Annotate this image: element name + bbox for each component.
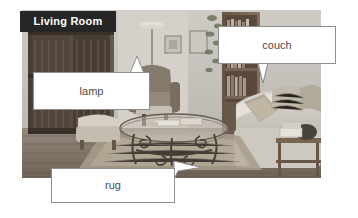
callout-couch-label: couch <box>262 40 291 51</box>
callout-couch[interactable]: couch <box>218 26 336 64</box>
callout-rug[interactable]: rug <box>51 168 175 203</box>
callout-rug-label: rug <box>105 180 121 191</box>
room-title-label: Living Room <box>34 16 103 27</box>
room-title-banner: Living Room <box>20 11 116 32</box>
callout-lamp[interactable]: lamp <box>33 72 150 110</box>
callout-lamp-label: lamp <box>80 86 104 97</box>
